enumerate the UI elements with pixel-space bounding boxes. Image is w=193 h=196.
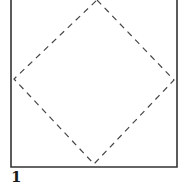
paper-square-outline: [11, 0, 177, 167]
valley-fold-dashed-diamond: [14, 0, 174, 164]
fold-diagram: [0, 0, 193, 196]
step-number: 1: [11, 170, 21, 185]
